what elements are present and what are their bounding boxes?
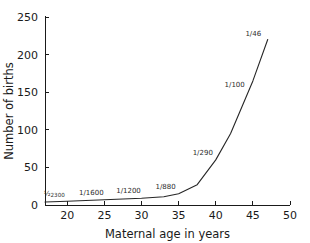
x-tick-label: 30 — [135, 209, 149, 222]
point-annotation: 1/1600 — [79, 189, 104, 197]
data-series-line — [45, 40, 268, 202]
point-annotation: ½2300 — [44, 190, 65, 198]
y-tick-label: 250 — [17, 11, 38, 24]
y-axis-tick-labels: 050100150200250 — [17, 11, 38, 212]
y-tick-label: 50 — [24, 161, 38, 174]
y-axis-tick-marks — [45, 17, 49, 205]
x-tick-label: 50 — [283, 209, 297, 222]
point-annotation: 1/46 — [245, 30, 261, 38]
point-annotation: 1/100 — [225, 81, 245, 89]
x-tick-label: 40 — [209, 209, 223, 222]
data-point-annotations: ½23001/16001/12001/8801/2901/1001/46 — [44, 30, 262, 198]
x-axis-tick-marks — [67, 201, 290, 205]
y-tick-label: 100 — [17, 124, 38, 137]
x-tick-label: 20 — [60, 209, 74, 222]
point-annotation: 1/1200 — [116, 187, 141, 195]
line-chart: 050100150200250 20253035404550 ½23001/16… — [0, 0, 310, 243]
y-tick-label: 150 — [17, 86, 38, 99]
x-tick-label: 25 — [97, 209, 111, 222]
y-tick-label: 200 — [17, 49, 38, 62]
point-annotation: 1/290 — [193, 149, 213, 157]
x-axis-tick-labels: 20253035404550 — [60, 209, 297, 222]
x-axis-title: Maternal age in years — [105, 227, 230, 241]
y-axis-title: Number of births — [2, 62, 16, 160]
point-annotation: 1/880 — [156, 183, 176, 191]
x-tick-label: 35 — [172, 209, 186, 222]
y-tick-label: 0 — [31, 199, 38, 212]
chart-container: 050100150200250 20253035404550 ½23001/16… — [0, 0, 310, 243]
x-tick-label: 45 — [246, 209, 260, 222]
